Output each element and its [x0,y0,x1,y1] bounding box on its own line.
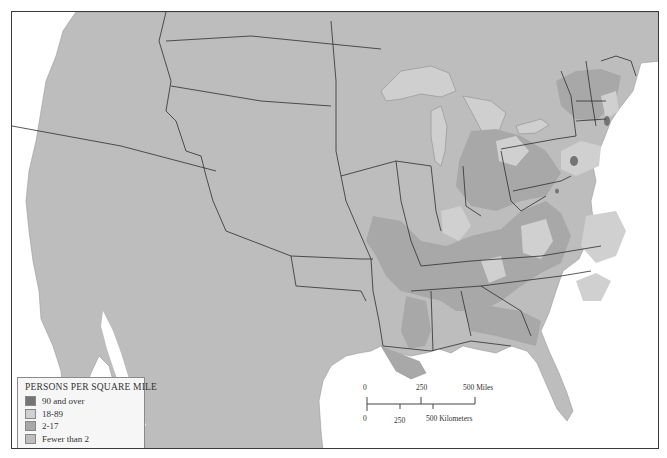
legend-title: PERSONS PER SQUARE MILE [25,382,139,392]
scale-bar: 0 250 500 Miles 0 250 500 Kilometers [366,382,486,442]
legend-label: Fewer than 2 [42,434,89,444]
legend-item-90-and-over: 90 and over [23,395,139,408]
legend-label: 90 and over [42,396,85,406]
scale-km-0: 0 [363,414,367,423]
legend-item-fewer-than-2: Fewer than 2 [23,433,139,446]
legend-swatch [25,421,36,431]
legend-swatch [25,396,36,406]
map-frame: PERSONS PER SQUARE MILE 90 and over 18-8… [11,11,659,449]
legend-item-2-17: 2-17 [23,420,139,433]
scale-km-500: 500 Kilometers [426,414,472,423]
legend-label: 18-89 [42,409,63,419]
boston-area [604,116,610,126]
legend-swatch [25,409,36,419]
scale-miles-500: 500 Miles [463,383,493,392]
legend-swatch [25,434,36,444]
legend-item-18-89: 18-89 [23,408,139,421]
legend: PERSONS PER SQUARE MILE 90 and over 18-8… [17,377,145,449]
legend-label: 2-17 [42,421,59,431]
baltimore-area [555,189,559,194]
scale-miles-0: 0 [363,383,367,392]
scale-miles-250: 250 [416,383,427,392]
new-york-city-area [570,156,578,166]
scale-km-250: 250 [394,416,405,425]
